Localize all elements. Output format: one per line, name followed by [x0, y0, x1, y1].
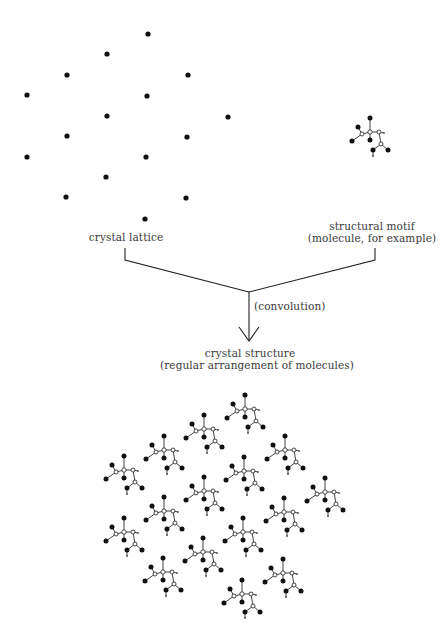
molecule-icon [183, 536, 224, 578]
lattice-point [103, 174, 108, 179]
molecule-icon [144, 495, 185, 537]
lattice-point [183, 195, 188, 200]
lattice-point [63, 194, 68, 199]
molecule-icon [144, 434, 185, 476]
crystal-lattice [24, 31, 230, 221]
lattice-point [104, 113, 109, 118]
motif-label-line1: structural motif [302, 220, 441, 232]
lattice-point [64, 133, 69, 138]
lattice-point [24, 92, 29, 97]
operation-label: (convolution) [254, 300, 324, 312]
structure-label: crystal structure (regular arrangement o… [160, 347, 340, 371]
structural-motif-molecule [350, 116, 391, 158]
lattice-point [144, 93, 149, 98]
motif-branch-line [249, 248, 375, 292]
lattice-point [145, 31, 150, 36]
molecule-icon [305, 476, 346, 518]
convolution-connector [125, 248, 375, 341]
lattice-point [24, 154, 29, 159]
lattice-point [64, 72, 69, 77]
molecule-icon [224, 455, 265, 497]
motif-label-line2: (molecule, for example) [302, 232, 441, 244]
lattice-point [184, 134, 189, 139]
molecule-icon [263, 557, 304, 599]
lattice-label: crystal lattice [74, 231, 178, 243]
lattice-point [142, 216, 147, 221]
lattice-point [185, 72, 190, 77]
molecule-icon [104, 454, 145, 496]
lattice-point [104, 51, 109, 56]
molecule-icon [265, 434, 306, 476]
lattice-branch-line [125, 248, 249, 292]
crystal-structure [104, 393, 346, 620]
convolution-diagram [0, 0, 441, 636]
structure-label-line2: (regular arrangement of molecules) [160, 359, 340, 371]
molecule-icon [222, 578, 263, 620]
structure-label-line1: crystal structure [160, 347, 340, 359]
molecule-icon [104, 516, 145, 558]
lattice-point [143, 154, 148, 159]
molecule-icon [225, 393, 266, 435]
molecule-icon [184, 475, 225, 517]
motif-label: structural motif (molecule, for example) [302, 220, 441, 244]
molecule-icon [264, 496, 305, 538]
molecule-icon [143, 556, 184, 598]
molecule-icon [184, 413, 225, 455]
lattice-point [225, 114, 230, 119]
molecule-icon [223, 516, 264, 558]
molecule-icon [350, 116, 391, 158]
